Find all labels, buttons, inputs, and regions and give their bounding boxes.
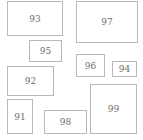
box-92: 92	[7, 66, 54, 96]
box-label: 96	[85, 61, 96, 71]
box-94: 94	[112, 61, 137, 77]
box-label: 97	[101, 17, 112, 27]
box-91: 91	[7, 99, 33, 134]
box-label: 95	[40, 46, 51, 56]
box-98: 98	[44, 110, 87, 134]
box-99: 99	[90, 84, 137, 134]
box-93: 93	[7, 1, 63, 36]
box-label: 91	[14, 112, 25, 122]
box-label: 99	[108, 104, 119, 114]
box-96: 96	[76, 54, 105, 77]
box-label: 94	[119, 64, 130, 74]
box-label: 92	[25, 76, 36, 86]
box-label: 93	[29, 14, 40, 24]
box-97: 97	[76, 1, 138, 43]
box-95: 95	[29, 40, 62, 62]
box-label: 98	[60, 117, 71, 127]
